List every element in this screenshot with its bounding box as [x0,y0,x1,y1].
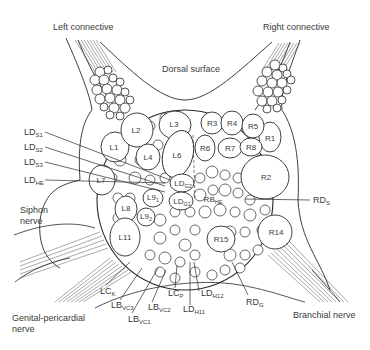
callout-LD-H12: LDH12 [201,288,224,301]
cell-label-L7: L7 [97,176,106,185]
siphon-nerve-fibers [20,232,108,278]
cell-label-L4: L4 [144,153,153,162]
cell-label-L9-1: L91 [147,193,159,203]
callout-RD-G: RDG [246,297,264,310]
cell-label-R8: R8 [246,143,256,152]
callout-LD-H11: LDH11 [183,304,205,317]
callout-LB-VC1: LBVC1 [128,314,151,327]
label-branchial-nerve: Branchial nerve [293,310,356,320]
label-genital-pericardial-nerve: Genital-pericardial nerve [12,313,102,335]
ganglion-diagram [0,0,370,350]
cell-label-R2: R2 [261,173,271,182]
callout-LD-S2: LDS2 [24,142,43,155]
cell-label-L3: L3 [170,120,179,129]
callout-LD-S3: LDS3 [24,157,43,170]
cell-label-L9-2: L92 [140,212,152,222]
callout-LB-VC2: LBVC2 [148,302,171,315]
cell-label-L6: L6 [173,151,182,160]
cell-label-L8: L8 [122,204,131,213]
cell-label-R7: R7 [225,144,235,153]
cell-label-R3: R3 [207,119,217,128]
cell-label-L11: L11 [119,233,132,242]
cell-label-R5: R5 [248,122,258,131]
callout-LD-HE: LDHE [24,175,44,188]
callout-LB-VC3: LBVC3 [111,300,134,313]
label-left-connective: Left connective [53,22,114,32]
cell-label-L2: L2 [132,126,141,135]
label-siphon-nerve: Siphon nerve [20,205,60,227]
label-right-connective: Right connective [263,22,330,32]
left-connective-cluster [90,66,134,120]
cell-label-L1: L1 [110,143,119,152]
right-connective-cluster [253,60,295,113]
cell-label-RB-HE: RBHE [204,195,223,205]
label-dorsal-surface: Dorsal surface [162,64,220,74]
cell-label-R6: R6 [200,144,210,153]
cell-label-R14: R14 [269,228,284,237]
cell-label-R4: R4 [227,119,237,128]
callout-LD-S1: LDS1 [24,127,43,140]
branchial-nerve-fibers [268,241,348,302]
cell-label-LDG2: LDG2 [174,179,192,189]
ganglion-sheath-outline [40,38,92,268]
cell-label-LDG1: LDG1 [173,197,191,207]
callout-LC-K: LCK [100,286,116,299]
cell-label-R1: R1 [265,134,275,143]
callout-RD-S: RDS [313,195,330,208]
callout-LC-P: LCP [168,288,184,301]
cell-label-R15: R15 [214,235,229,244]
genital-pericardial-fibers [55,258,131,302]
